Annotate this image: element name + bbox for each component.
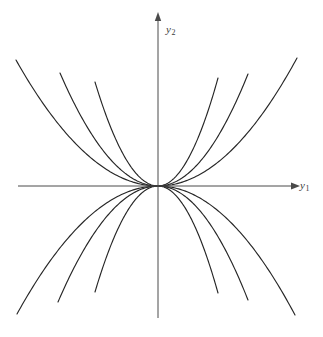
trajectory-curve [60, 73, 158, 186]
trajectory-curve [158, 186, 218, 293]
horizontal-axis-label-subscript: 1 [305, 184, 309, 193]
axes [18, 12, 300, 318]
vertical-axis-label-subscript: 2 [171, 28, 175, 37]
trajectory-curve [158, 58, 297, 186]
phase-portrait-plot [0, 0, 323, 337]
trajectory-curve [158, 186, 295, 315]
trajectory-curve [158, 78, 218, 186]
trajectory-curve [95, 82, 158, 186]
trajectory-curve [58, 186, 158, 302]
trajectory-curve [17, 186, 158, 314]
trajectory-curve [95, 186, 158, 292]
vertical-axis-arrowhead [155, 12, 161, 21]
phase-portrait-figure: y2 y1 [0, 0, 323, 337]
trajectory-curve [158, 186, 248, 300]
vertical-axis-label: y2 [166, 24, 175, 35]
horizontal-axis-label: y1 [300, 180, 309, 191]
trajectory-curve [16, 60, 158, 186]
trajectory-curve [158, 74, 248, 186]
horizontal-axis-arrowhead [291, 182, 300, 189]
